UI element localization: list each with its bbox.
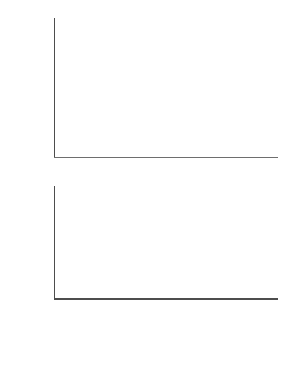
figure	[0, 0, 284, 365]
chart-panel-bottom	[54, 186, 278, 300]
bar-series-top	[54, 18, 278, 158]
y-axis-label	[13, 42, 39, 242]
chart-panel-top	[54, 18, 278, 158]
bar-series-bottom	[54, 186, 278, 300]
